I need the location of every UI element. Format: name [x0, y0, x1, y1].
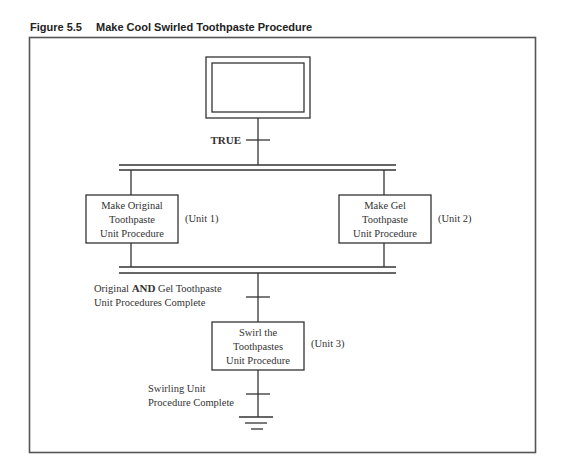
step-make-original: Make Original Toothpaste Unit Procedure	[86, 195, 178, 243]
transition-end-label-line1: Swirling Unit	[148, 383, 206, 394]
svg-text:Toothpaste: Toothpaste	[362, 214, 408, 225]
unit-3-label: (Unit 3)	[311, 338, 345, 350]
svg-text:Make Gel: Make Gel	[364, 200, 406, 211]
svg-text:Unit Procedure: Unit Procedure	[353, 228, 417, 239]
svg-text:Toothpastes: Toothpastes	[233, 341, 283, 352]
sfc-diagram: TRUE Make Original Toothpaste Unit Proce…	[0, 0, 564, 473]
transition-end-label-line2: Procedure Complete	[148, 397, 234, 408]
svg-text:Swirl the: Swirl the	[239, 327, 278, 338]
transition-and-label-line2: Unit Procedures Complete	[94, 297, 206, 308]
step-make-gel: Make Gel Toothpaste Unit Procedure	[339, 195, 431, 243]
initial-step	[206, 57, 310, 118]
svg-text:Toothpaste: Toothpaste	[109, 214, 155, 225]
step-swirl: Swirl the Toothpastes Unit Procedure	[212, 322, 304, 370]
parallel-convergence-bar	[119, 267, 396, 273]
parallel-divergence-bar	[119, 165, 396, 170]
transition-true-label: TRUE	[210, 134, 241, 146]
svg-text:Make Original: Make Original	[101, 200, 163, 211]
ground-end-icon	[239, 417, 273, 429]
unit-2-label: (Unit 2)	[438, 213, 472, 225]
transition-and-label-line1: Original AND Gel Toothpaste	[94, 282, 222, 294]
svg-text:Unit Procedure: Unit Procedure	[226, 355, 290, 366]
unit-1-label: (Unit 1)	[185, 213, 219, 225]
svg-text:Unit Procedure: Unit Procedure	[100, 228, 164, 239]
